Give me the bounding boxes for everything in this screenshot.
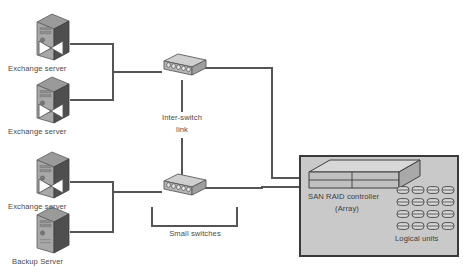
server-label-exchange-3: Exchange server [8, 202, 66, 212]
annotation-inter-switch-link-line2: link [142, 125, 222, 135]
logical-units-label: Logical units [395, 234, 439, 244]
server-label-backup: Backup Server [12, 257, 63, 267]
san-controller-label-line1: SAN RAID controller [308, 192, 379, 202]
annotation-inter-switch-link-line1: Inter-switch [142, 113, 222, 123]
server-group-exchange-3[interactable] [37, 152, 69, 198]
server-group-backup[interactable] [37, 207, 69, 253]
raid-controller-icon [309, 160, 420, 188]
switch-top-icon[interactable] [164, 54, 206, 75]
link-exchange1-exchange2-bus [70, 44, 113, 100]
annotation-small-switches: Small switches [150, 229, 240, 239]
switch-bottom-icon[interactable] [164, 174, 206, 195]
server-group-exchange-1[interactable] [37, 14, 69, 60]
server-group-exchange-2[interactable] [37, 77, 69, 123]
san-controller-label-line2: (Array) [308, 204, 386, 214]
network-diagram-canvas: Exchange server Exchange server Exchange… [0, 0, 463, 273]
link-exchange3-backup-bus [70, 182, 113, 232]
small-switches-bracket [152, 207, 237, 226]
link-switch-bottom-to-san [202, 187, 300, 188]
server-label-exchange-2: Exchange server [8, 127, 66, 137]
link-switch-top-to-san [200, 68, 300, 178]
server-label-exchange-1: Exchange server [8, 64, 66, 74]
